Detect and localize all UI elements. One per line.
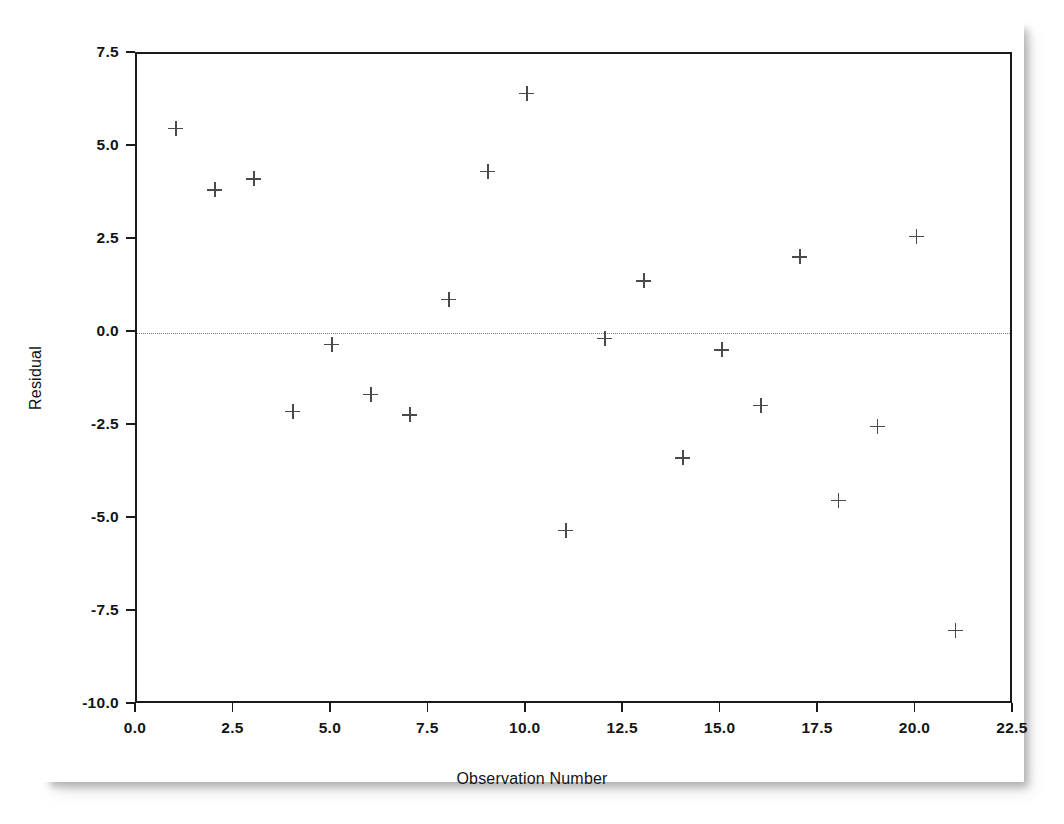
x-tick-mark: [816, 703, 818, 712]
data-point: [714, 342, 729, 357]
x-tick-label: 17.5: [801, 719, 832, 737]
x-tick-label: 0.0: [124, 719, 146, 737]
data-point: [948, 623, 963, 638]
data-point: [870, 419, 885, 434]
data-point: [675, 450, 690, 465]
y-tick-label: 2.5: [97, 229, 119, 247]
data-point: [636, 273, 651, 288]
x-tick-mark: [427, 703, 429, 712]
data-point: [597, 331, 612, 346]
y-tick-label: -7.5: [91, 601, 119, 619]
data-point: [909, 229, 924, 244]
x-tick-mark: [329, 703, 331, 712]
x-tick-label: 5.0: [319, 719, 341, 737]
data-point: [168, 121, 183, 136]
x-tick-label: 20.0: [899, 719, 930, 737]
y-tick-label: 0.0: [97, 322, 119, 340]
x-tick-mark: [134, 703, 136, 712]
x-tick-mark: [621, 703, 623, 712]
y-tick-label: -2.5: [91, 415, 119, 433]
x-tick-mark: [232, 703, 234, 712]
data-point: [519, 86, 534, 101]
data-point: [207, 182, 222, 197]
x-tick-mark: [524, 703, 526, 712]
x-tick-label: 12.5: [607, 719, 638, 737]
y-tick-mark: [126, 144, 135, 146]
data-point: [402, 407, 417, 422]
y-tick-mark: [126, 51, 135, 53]
data-point: [246, 171, 261, 186]
x-tick-mark: [1011, 703, 1013, 712]
x-tick-mark: [719, 703, 721, 712]
y-tick-label: -10.0: [82, 694, 119, 712]
x-tick-label: 2.5: [221, 719, 243, 737]
y-tick-mark: [126, 609, 135, 611]
y-axis-label: Residual: [27, 346, 45, 410]
x-tick-label: 15.0: [704, 719, 735, 737]
y-tick-mark: [126, 237, 135, 239]
x-tick-label: 10.0: [509, 719, 540, 737]
x-tick-label: 22.5: [996, 719, 1027, 737]
data-point: [753, 398, 768, 413]
x-tick-mark: [914, 703, 916, 712]
data-point: [285, 404, 300, 419]
data-point: [831, 493, 846, 508]
data-point: [324, 337, 339, 352]
data-point: [441, 292, 456, 307]
y-tick-mark: [126, 423, 135, 425]
data-point: [480, 164, 495, 179]
y-tick-label: 7.5: [97, 43, 119, 61]
x-tick-label: 7.5: [416, 719, 438, 737]
y-tick-mark: [126, 702, 135, 704]
y-tick-label: 5.0: [97, 136, 119, 154]
x-axis-label: Observation Number: [0, 770, 1064, 788]
plot-area: [135, 52, 1012, 703]
data-point: [792, 249, 807, 264]
residual-plot-figure: 0.02.55.07.510.012.515.017.520.022.5 7.5…: [0, 0, 1064, 824]
y-tick-label: -5.0: [91, 508, 119, 526]
data-point: [363, 387, 378, 402]
y-tick-mark: [126, 516, 135, 518]
y-tick-mark: [126, 330, 135, 332]
data-point: [558, 523, 573, 538]
zero-reference-line: [137, 333, 1010, 334]
